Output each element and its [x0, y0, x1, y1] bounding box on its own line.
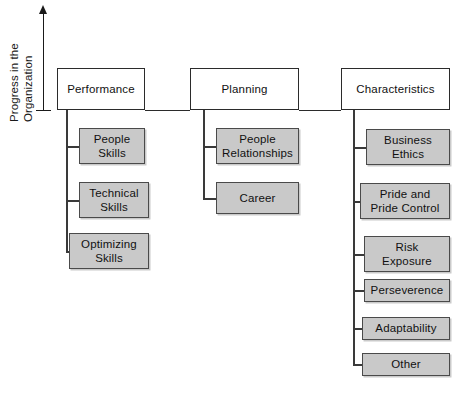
node-adaptability[interactable]: Adaptability: [362, 317, 450, 340]
node-career-label: Career: [239, 191, 275, 205]
node-characteristics[interactable]: Characteristics: [341, 68, 450, 110]
node-adaptability-label: Adaptability: [375, 321, 436, 335]
node-pride-and-pride-control[interactable]: Pride and Pride Control: [360, 183, 450, 219]
node-perseverence[interactable]: Perseverence: [364, 279, 450, 302]
axis-label-line2: Organization: [22, 56, 34, 122]
node-performance[interactable]: Performance: [57, 68, 145, 110]
node-career[interactable]: Career: [216, 182, 299, 214]
progress-axis-base-tick: [36, 110, 51, 111]
node-optimizing-skills[interactable]: Optimizing Skills: [69, 233, 149, 269]
node-optimizing-skills-line1: Optimizing: [81, 237, 137, 251]
progress-axis-line: [43, 12, 44, 111]
node-business-ethics-line1: Business: [384, 133, 432, 147]
node-optimizing-skills-line2: Skills: [95, 251, 123, 265]
node-technical-skills-line2: Skills: [100, 200, 128, 214]
stub-characteristics-1: [353, 147, 367, 149]
stub-planning-2: [203, 198, 217, 200]
node-risk-exposure[interactable]: Risk Exposure: [364, 236, 450, 272]
node-perseverence-label: Perseverence: [371, 283, 444, 297]
node-people-skills-line1: People: [94, 132, 131, 146]
node-people-relationships-line1: People: [239, 132, 276, 146]
node-technical-skills-line1: Technical: [89, 186, 138, 200]
node-technical-skills[interactable]: Technical Skills: [79, 182, 149, 218]
node-characteristics-label: Characteristics: [356, 82, 434, 96]
node-people-skills-line2: Skills: [98, 146, 126, 160]
node-people-skills[interactable]: People Skills: [79, 128, 145, 164]
node-planning[interactable]: Planning: [190, 68, 299, 110]
node-business-ethics-line2: Ethics: [392, 147, 424, 161]
node-performance-label: Performance: [67, 82, 134, 96]
stem-performance: [66, 110, 68, 252]
stem-planning: [203, 110, 205, 199]
node-risk-exposure-line2: Exposure: [382, 254, 432, 268]
up-arrow-icon: [39, 5, 47, 14]
node-pride-and-pride-control-line2: Pride Control: [370, 201, 439, 215]
node-other[interactable]: Other: [362, 353, 450, 376]
node-people-relationships[interactable]: People Relationships: [216, 128, 299, 164]
node-business-ethics[interactable]: Business Ethics: [366, 129, 450, 165]
org-progress-diagram: Progress in the Organization Performance…: [0, 0, 456, 394]
connector-planning-characteristics: [299, 110, 341, 111]
node-risk-exposure-line1: Risk: [396, 240, 419, 254]
connector-performance-planning: [145, 110, 190, 111]
node-planning-label: Planning: [222, 82, 268, 96]
node-other-label: Other: [391, 357, 421, 371]
stub-planning-1: [203, 146, 217, 148]
stub-performance-1: [66, 146, 80, 148]
stub-performance-2: [66, 200, 80, 202]
axis-label-line1: Progress in the: [8, 43, 20, 122]
node-pride-and-pride-control-line1: Pride and: [380, 187, 431, 201]
node-people-relationships-line2: Relationships: [222, 146, 293, 160]
